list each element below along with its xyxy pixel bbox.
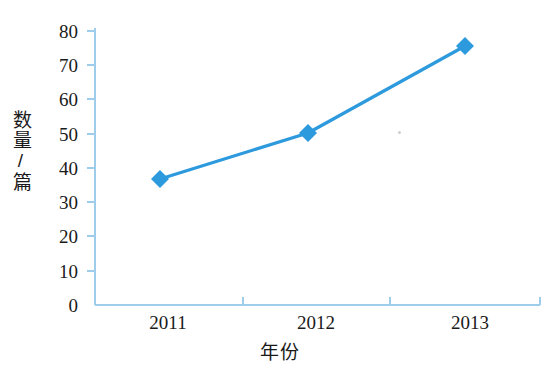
y-tick-label-40: 40 xyxy=(36,159,78,178)
x-axis-title: 年份 xyxy=(260,337,300,364)
scan-speck xyxy=(398,131,401,134)
data-point-2013 xyxy=(456,37,474,55)
y-tick-label-10: 10 xyxy=(36,262,78,281)
y-tick-label-70: 70 xyxy=(36,56,78,75)
data-point-2011 xyxy=(151,170,169,188)
y-tick-label-0: 0 xyxy=(36,296,78,315)
x-tick-label-2012: 2012 xyxy=(297,313,335,332)
data-point-2012 xyxy=(299,124,317,142)
y-tick-label-80: 80 xyxy=(36,22,78,41)
x-tick-label-2011: 2011 xyxy=(149,313,186,332)
y-tick-label-30: 30 xyxy=(36,193,78,212)
x-tick-label-2013: 2013 xyxy=(451,313,489,332)
y-axis-title: 数量/篇 xyxy=(4,110,34,192)
y-axis-ticks xyxy=(87,31,95,271)
y-tick-label-60: 60 xyxy=(36,90,78,109)
line-chart: 0 10 20 30 40 50 60 70 80 2011 2012 2013… xyxy=(0,0,555,370)
x-axis-ticks xyxy=(243,297,540,305)
y-tick-label-50: 50 xyxy=(36,125,78,144)
y-tick-label-20: 20 xyxy=(36,227,78,246)
data-line-series-1 xyxy=(160,46,465,179)
